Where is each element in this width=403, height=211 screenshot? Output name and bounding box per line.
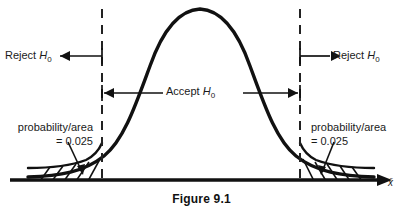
left-probability-line2: = 0.025 xyxy=(5,134,93,148)
accept-label: Accept H0 xyxy=(163,85,218,102)
x-axis-label: x̄ xyxy=(388,176,393,189)
reject-right-label: Reject H0 xyxy=(333,49,380,66)
reject-left-subscript: 0 xyxy=(47,55,51,64)
right-probability-line1: probability/area xyxy=(311,120,403,134)
distribution-diagram xyxy=(0,0,403,211)
reject-right-symbol: H xyxy=(367,49,375,61)
reject-left-text: Reject xyxy=(5,49,39,61)
reject-left-label: Reject H0 xyxy=(5,49,52,66)
left-tail-hatching xyxy=(40,159,100,181)
accept-left-arrowhead xyxy=(104,88,114,98)
left-probability-line1: probability/area xyxy=(5,120,93,134)
reject-left-arrowhead xyxy=(60,51,70,61)
accept-subscript: 0 xyxy=(211,91,215,100)
left-probability-label: probability/area = 0.025 xyxy=(5,120,93,148)
accept-text: Accept xyxy=(166,85,203,97)
right-probability-line2: = 0.025 xyxy=(311,134,403,148)
accept-symbol: H xyxy=(203,85,211,97)
figure-caption: Figure 9.1 xyxy=(0,192,403,206)
reject-right-arrow xyxy=(300,48,330,64)
reject-left-symbol: H xyxy=(39,49,47,61)
reject-right-text: Reject xyxy=(333,49,367,61)
right-tail-hatching xyxy=(303,159,362,181)
figure-container: Reject H0 Reject H0 Accept H0 probabilit… xyxy=(0,0,403,211)
reject-right-subscript: 0 xyxy=(375,55,379,64)
right-probability-label: probability/area = 0.025 xyxy=(311,120,403,148)
accept-right-arrowhead xyxy=(288,88,298,98)
